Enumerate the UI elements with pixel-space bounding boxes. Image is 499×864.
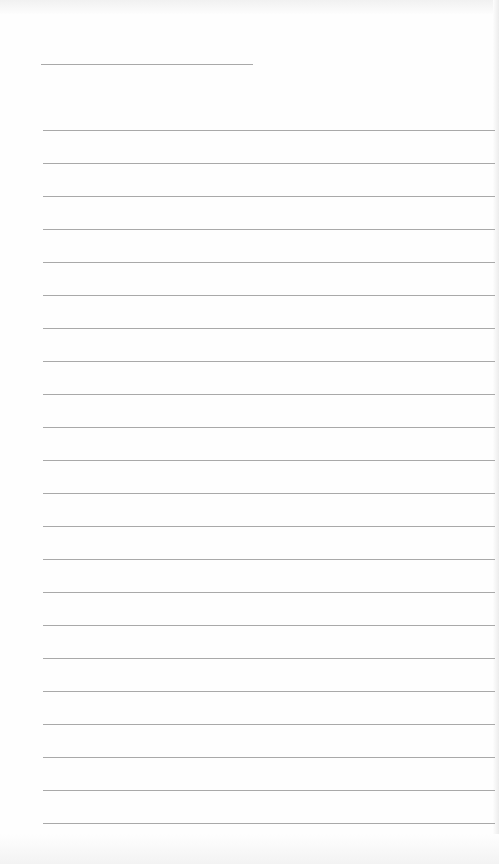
ruled-line: [43, 460, 495, 461]
paper-top-edge: [0, 0, 499, 14]
ruled-line: [43, 559, 495, 560]
ruled-line: [43, 658, 495, 659]
ruled-line: [43, 394, 495, 395]
ruled-line: [43, 790, 495, 791]
ruled-line: [43, 691, 495, 692]
ruled-line: [43, 724, 495, 725]
ruled-line: [43, 262, 495, 263]
ruled-line: [43, 526, 495, 527]
ruled-line: [43, 625, 495, 626]
ruled-line: [43, 196, 495, 197]
ruled-line: [43, 130, 495, 131]
paper-bottom-edge: [0, 834, 499, 864]
ruled-line: [43, 592, 495, 593]
ruled-line: [43, 229, 495, 230]
ruled-line: [43, 328, 495, 329]
ruled-line: [43, 295, 495, 296]
ruled-line: [43, 493, 495, 494]
ruled-line: [43, 361, 495, 362]
title-line: [41, 64, 253, 65]
ruled-line: [43, 163, 495, 164]
ruled-line: [43, 757, 495, 758]
ruled-line: [43, 427, 495, 428]
ruled-line: [43, 823, 495, 824]
